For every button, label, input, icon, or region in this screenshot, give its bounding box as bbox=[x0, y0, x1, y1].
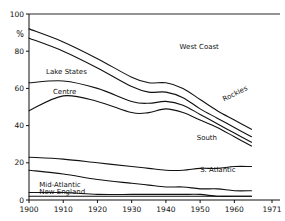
y-tick-label: 40 bbox=[14, 121, 24, 130]
y-tick-label: 0 bbox=[19, 196, 24, 205]
series-label-new-england: New England bbox=[39, 188, 85, 196]
x-tick-label: 1930 bbox=[122, 205, 141, 214]
x-tick-label: 1920 bbox=[88, 205, 107, 214]
series-label-centre: Centre bbox=[53, 88, 76, 96]
x-tick-label: 1900 bbox=[19, 205, 38, 214]
x-tick-label: 1940 bbox=[156, 205, 175, 214]
x-tick-label: 1950 bbox=[191, 205, 210, 214]
chart-figure: Lake StatesCentreWest CoastRockiesSouthS… bbox=[0, 0, 285, 221]
x-tick-label: 1971 bbox=[262, 205, 281, 214]
series-label-s-atlantic: S. Atlantic bbox=[200, 166, 236, 174]
y-tick-label: 100 bbox=[10, 10, 25, 19]
y-tick-label: 60 bbox=[14, 84, 24, 93]
series-label-lake-states: Lake States bbox=[46, 68, 87, 76]
y-tick-label: 20 bbox=[14, 158, 24, 167]
y-axis-unit-label: % bbox=[16, 30, 24, 39]
series-label-west-coast: West Coast bbox=[180, 43, 220, 51]
x-tick-label: 1960 bbox=[225, 205, 244, 214]
line-chart-canvas: Lake StatesCentreWest CoastRockiesSouthS… bbox=[0, 0, 285, 221]
series-label-south: South bbox=[197, 134, 217, 142]
y-tick-label: 80 bbox=[14, 47, 24, 56]
x-tick-label: 1910 bbox=[54, 205, 73, 214]
